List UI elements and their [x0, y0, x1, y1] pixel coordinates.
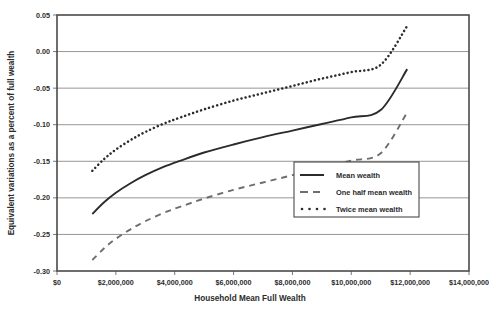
- legend-label-dashed: One half mean wealth: [336, 188, 412, 197]
- legend-swatch-dotted: [308, 208, 311, 211]
- chart-background: [0, 0, 494, 314]
- x-tick-label: $0: [53, 278, 61, 287]
- y-axis-title: Equivalent variations as a percent of fu…: [7, 51, 16, 236]
- x-axis-title: Household Mean Full Wealth: [194, 294, 305, 303]
- legend-label-dotted: Twice mean wealth: [336, 205, 403, 214]
- x-tick-label: $6,000,000: [216, 278, 252, 287]
- x-tick-label: $4,000,000: [157, 278, 193, 287]
- chart-legend: Mean wealthOne half mean wealthTwice mea…: [294, 162, 419, 217]
- y-tick-label: -0.05: [34, 84, 50, 93]
- chart-container: 0.050.00-0.05-0.10-0.15-0.20-0.25-0.30 $…: [0, 0, 494, 314]
- y-tick-label: -0.15: [34, 157, 50, 166]
- x-tick-label: $12,000,000: [390, 278, 430, 287]
- line-chart: 0.050.00-0.05-0.10-0.15-0.20-0.25-0.30 $…: [0, 0, 494, 314]
- x-tick-label: $14,000,000: [449, 278, 489, 287]
- y-tick-label: -0.20: [34, 193, 50, 202]
- legend-label-solid: Mean wealth: [336, 171, 380, 180]
- y-tick-label: 0.00: [36, 47, 50, 56]
- x-tick-label: $8,000,000: [274, 278, 310, 287]
- legend-swatch-dotted: [316, 208, 319, 211]
- y-tick-label: 0.05: [36, 11, 50, 20]
- legend-swatch-dotted: [301, 208, 304, 211]
- y-tick-label: -0.10: [34, 120, 50, 129]
- x-tick-label: $10,000,000: [331, 278, 371, 287]
- legend-swatch-dotted: [323, 208, 326, 211]
- y-tick-label: -0.30: [34, 267, 50, 276]
- y-tick-label: -0.25: [34, 230, 50, 239]
- x-tick-label: $2,000,000: [98, 278, 134, 287]
